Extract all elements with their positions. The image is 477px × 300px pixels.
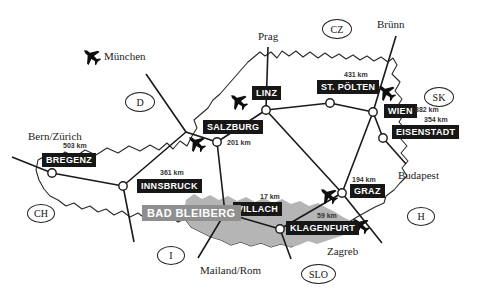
external-city-budapest: Budapest (398, 169, 439, 181)
city-marker-graz (338, 189, 346, 197)
distance-label-bern-zuerich: 503 km (63, 142, 87, 150)
country-oval-d: D (125, 92, 155, 112)
country-oval-ch: CH (27, 204, 55, 223)
city-label-eisenstadt: EISENSTADT (392, 125, 459, 139)
city-label-innsbruck: INNSBRUCK (137, 179, 202, 193)
country-code-i: I (169, 250, 172, 261)
distance-label-wien: 382 km (415, 106, 439, 114)
city-label-klagenfurt: KLAGENFURT (286, 221, 359, 235)
external-city-zagreb: Zagreb (327, 245, 358, 257)
country-code-h: H (417, 211, 424, 222)
city-marker-linz (262, 106, 270, 114)
highlight-city-label-bad-bleiberg: BAD BLEIBERG (142, 205, 241, 221)
external-city-prag: Prag (258, 30, 278, 42)
distance-label-villach: 17 km (260, 193, 280, 201)
city-label-salzburg: SALZBURG (203, 120, 263, 134)
country-code-slo: SLO (309, 269, 328, 280)
city-marker-klagenfurt (276, 225, 284, 233)
country-code-cz: CZ (331, 24, 344, 35)
country-oval-h: H (407, 207, 435, 226)
country-oval-i: I (157, 246, 185, 265)
airplane-icon-muenchen (79, 44, 104, 69)
external-city-mailand-rom: Mailand/Rom (200, 264, 261, 276)
city-marker-eisenstadt (379, 134, 387, 142)
distance-label-salzburg: 201 km (227, 139, 251, 147)
distance-label-klagenfurt: 59 km (317, 212, 337, 220)
country-oval-slo: SLO (301, 264, 336, 284)
austria-distance-map: München Bern/Zürich 503 km Prag Brünn Bu… (0, 0, 477, 300)
external-city-bern-zuerich: Bern/Zürich (28, 130, 82, 142)
city-label-st-poelten: ST. PÖLTEN (317, 80, 379, 94)
city-label-wien: WIEN (384, 104, 417, 118)
country-code-d: D (136, 97, 143, 108)
distance-label-innsbruck: 361 km (160, 169, 184, 177)
city-marker-innsbruck (119, 182, 127, 190)
country-code-ch: CH (34, 208, 48, 219)
map-graphics (0, 0, 477, 300)
distance-label-st-poelten: 431 km (344, 71, 368, 79)
city-label-bregenz: BREGENZ (42, 153, 96, 167)
city-label-graz: GRAZ (350, 184, 385, 198)
city-marker-wien (369, 108, 377, 116)
city-marker-st-poelten (326, 99, 334, 107)
city-label-linz: LINZ (252, 86, 281, 100)
city-marker-bregenz (48, 169, 56, 177)
country-oval-cz: CZ (322, 19, 352, 39)
city-marker-salzburg (213, 138, 221, 146)
external-city-muenchen: München (104, 50, 146, 62)
country-code-sk: SK (433, 92, 446, 103)
external-city-bruenn: Brünn (377, 18, 405, 30)
distance-label-eisenstadt: 354 km (424, 116, 448, 124)
country-oval-sk: SK (424, 87, 454, 107)
distance-label-graz: 194 km (352, 176, 376, 184)
